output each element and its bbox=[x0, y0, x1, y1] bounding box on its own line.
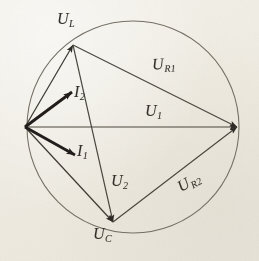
label-u-r1-base: U bbox=[152, 55, 165, 73]
phasor-diagram-figure: UL UR1 I2 U1 I1 U2 UR2 UC bbox=[0, 0, 259, 261]
label-u-l-sub: L bbox=[69, 18, 75, 29]
label-u-2-base: U bbox=[111, 172, 123, 189]
label-u-1-sub: 1 bbox=[157, 110, 162, 121]
label-u-c: UC bbox=[93, 226, 112, 242]
label-u-c-sub: C bbox=[105, 233, 112, 244]
label-u-1: U1 bbox=[145, 103, 162, 119]
label-i-1: I1 bbox=[77, 143, 88, 159]
label-i-2-sub: 2 bbox=[80, 91, 85, 102]
vector-u-2 bbox=[73, 45, 113, 222]
label-u-l: UL bbox=[57, 11, 75, 27]
label-u-r1-sub: R1 bbox=[164, 62, 176, 74]
vector-u-r2 bbox=[113, 127, 237, 222]
label-u-1-base: U bbox=[145, 102, 157, 119]
label-u-l-base: U bbox=[57, 10, 69, 27]
vector-i-2 bbox=[25, 92, 72, 127]
label-i-2-base: I bbox=[74, 83, 80, 100]
vector-i-1 bbox=[25, 127, 75, 155]
vector-u-l bbox=[25, 45, 73, 127]
phasor-vector-canvas bbox=[0, 0, 259, 261]
label-i-1-sub: 1 bbox=[83, 150, 88, 161]
label-u-r1: UR1 bbox=[152, 55, 176, 72]
label-u-c-base: U bbox=[93, 225, 105, 242]
label-u-2: U2 bbox=[111, 173, 128, 189]
label-u-2-sub: 2 bbox=[123, 180, 128, 191]
label-i-1-base: I bbox=[77, 142, 83, 159]
label-i-2: I2 bbox=[74, 84, 85, 100]
